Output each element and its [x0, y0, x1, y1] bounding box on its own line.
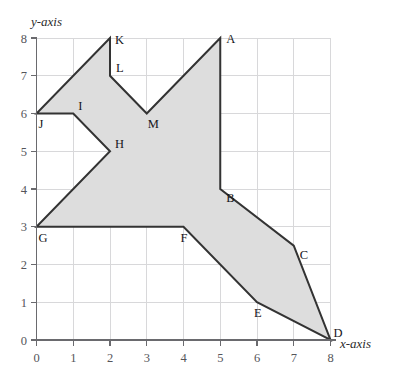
vertex-label-M: M — [148, 117, 159, 131]
x-tick-label: 1 — [70, 351, 76, 365]
vertex-label-G: G — [39, 231, 48, 245]
x-tick-labels: 0 1 2 3 4 5 6 7 8 — [33, 351, 333, 365]
vertex-label-D: D — [334, 326, 343, 340]
vertex-label-J: J — [39, 117, 44, 131]
x-tick-label: 4 — [180, 351, 187, 365]
vertex-label-H: H — [115, 137, 124, 151]
y-tick-label: 5 — [21, 145, 27, 159]
x-tick-label: 7 — [291, 351, 297, 365]
geometry-figure: 8 7 6 5 4 3 2 1 0 0 1 2 3 4 5 6 7 8 y-ax… — [0, 0, 393, 378]
vertex-label-F: F — [181, 231, 188, 245]
x-tick-label: 6 — [254, 351, 260, 365]
y-tick-label: 1 — [21, 296, 27, 310]
y-tick-label: 7 — [21, 69, 27, 83]
vertex-label-E: E — [254, 306, 262, 320]
y-tick-label: 8 — [21, 32, 27, 46]
vertex-label-B: B — [226, 191, 234, 205]
x-tick-label: 3 — [144, 351, 150, 365]
y-tick-label: 6 — [21, 107, 27, 121]
vertex-label-I: I — [78, 99, 82, 113]
x-tick-label: 2 — [107, 351, 113, 365]
y-tick-label: 2 — [21, 258, 27, 272]
vertex-label-A: A — [226, 32, 235, 46]
x-tick-label: 8 — [327, 351, 333, 365]
y-tick-label: 4 — [21, 183, 28, 197]
x-tick-label: 5 — [217, 351, 223, 365]
y-axis-label: y-axis — [29, 14, 62, 29]
y-tick-labels: 8 7 6 5 4 3 2 1 0 — [21, 32, 28, 348]
coordinate-plane-plot: 8 7 6 5 4 3 2 1 0 0 1 2 3 4 5 6 7 8 y-ax… — [0, 0, 393, 378]
vertex-label-K: K — [115, 33, 124, 47]
y-tick-label: 3 — [21, 220, 27, 234]
y-tick-label: 0 — [21, 334, 27, 348]
x-tick-label: 0 — [33, 351, 39, 365]
vertex-label-C: C — [300, 248, 308, 262]
x-axis-label: x-axis — [339, 336, 371, 351]
vertex-label-L: L — [116, 61, 124, 75]
